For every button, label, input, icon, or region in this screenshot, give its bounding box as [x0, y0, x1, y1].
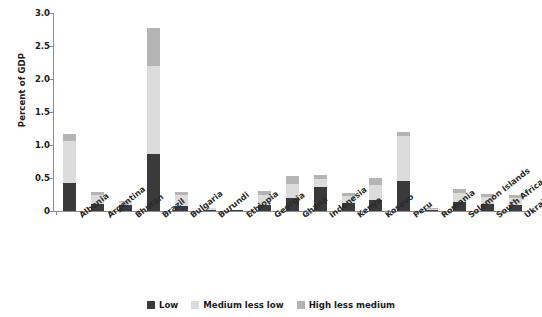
bar-segment	[63, 141, 76, 183]
y-tick-label: 1.5	[35, 107, 50, 117]
chart-legend: LowMedium less lowHigh less medium	[0, 300, 542, 310]
x-tick-label: Peru	[411, 212, 417, 220]
x-tick-label: Solomon Islands	[466, 212, 472, 220]
legend-item[interactable]: Low	[147, 300, 178, 310]
x-tick-label: Kenya	[355, 212, 361, 220]
bar-series-container	[56, 13, 529, 211]
bar-segment	[286, 176, 299, 184]
bar-group[interactable]	[147, 28, 160, 211]
bar-segment	[397, 136, 410, 182]
y-tick-label: 2.0	[35, 74, 50, 84]
legend-swatch	[191, 301, 199, 309]
bar-group[interactable]	[63, 134, 76, 211]
y-tick-label: 0.5	[35, 173, 50, 183]
chart-figure: FIGURE 4.1 Fiscal Cost of Social Assista…	[0, 0, 542, 317]
legend-label: Medium less low	[203, 300, 283, 310]
legend-swatch	[147, 301, 155, 309]
x-tick-label: Georgia	[272, 212, 278, 220]
x-tick-label: Bhutan	[133, 212, 139, 220]
bar-segment	[147, 66, 160, 153]
x-tick-label: Argentina	[105, 212, 111, 220]
bar-segment	[314, 179, 327, 186]
x-tick-label: Indonesia	[327, 212, 333, 220]
legend-label: Low	[159, 300, 178, 310]
y-tick-label: 0	[44, 206, 50, 216]
x-tick-label: Romania	[439, 212, 445, 220]
plot-area: 00.51.01.52.02.53.0	[56, 13, 529, 211]
legend-label: High less medium	[309, 300, 395, 310]
x-tick-label: Ukraine	[522, 212, 528, 220]
bar-segment	[147, 28, 160, 67]
x-tick-label: Bulgaria	[188, 212, 194, 220]
bar-segment	[369, 178, 382, 185]
y-tick-label: 3.0	[35, 8, 50, 18]
x-tick-label: Ghana	[300, 212, 306, 220]
x-tick-label: Kosovo	[383, 212, 389, 220]
bar-segment	[63, 183, 76, 211]
x-tick-label: Brazil	[160, 212, 166, 220]
legend-item[interactable]: Medium less low	[191, 300, 283, 310]
x-tick-label: Ethiopia	[244, 212, 250, 220]
bar-segment	[63, 134, 76, 141]
y-tick-label: 1.0	[35, 140, 50, 150]
y-axis-line	[53, 13, 54, 212]
x-tick-label: South Africa	[494, 212, 500, 220]
y-axis-title: Percent of GDP	[17, 30, 27, 150]
x-tick-label: Burundi	[216, 212, 222, 220]
y-tick-label: 2.5	[35, 41, 50, 51]
legend-item[interactable]: High less medium	[297, 300, 395, 310]
legend-swatch	[297, 301, 305, 309]
x-axis-labels: AlbaniaArgentinaBhutanBrazilBulgariaBuru…	[56, 212, 529, 284]
x-tick-label: Albania	[77, 212, 83, 220]
